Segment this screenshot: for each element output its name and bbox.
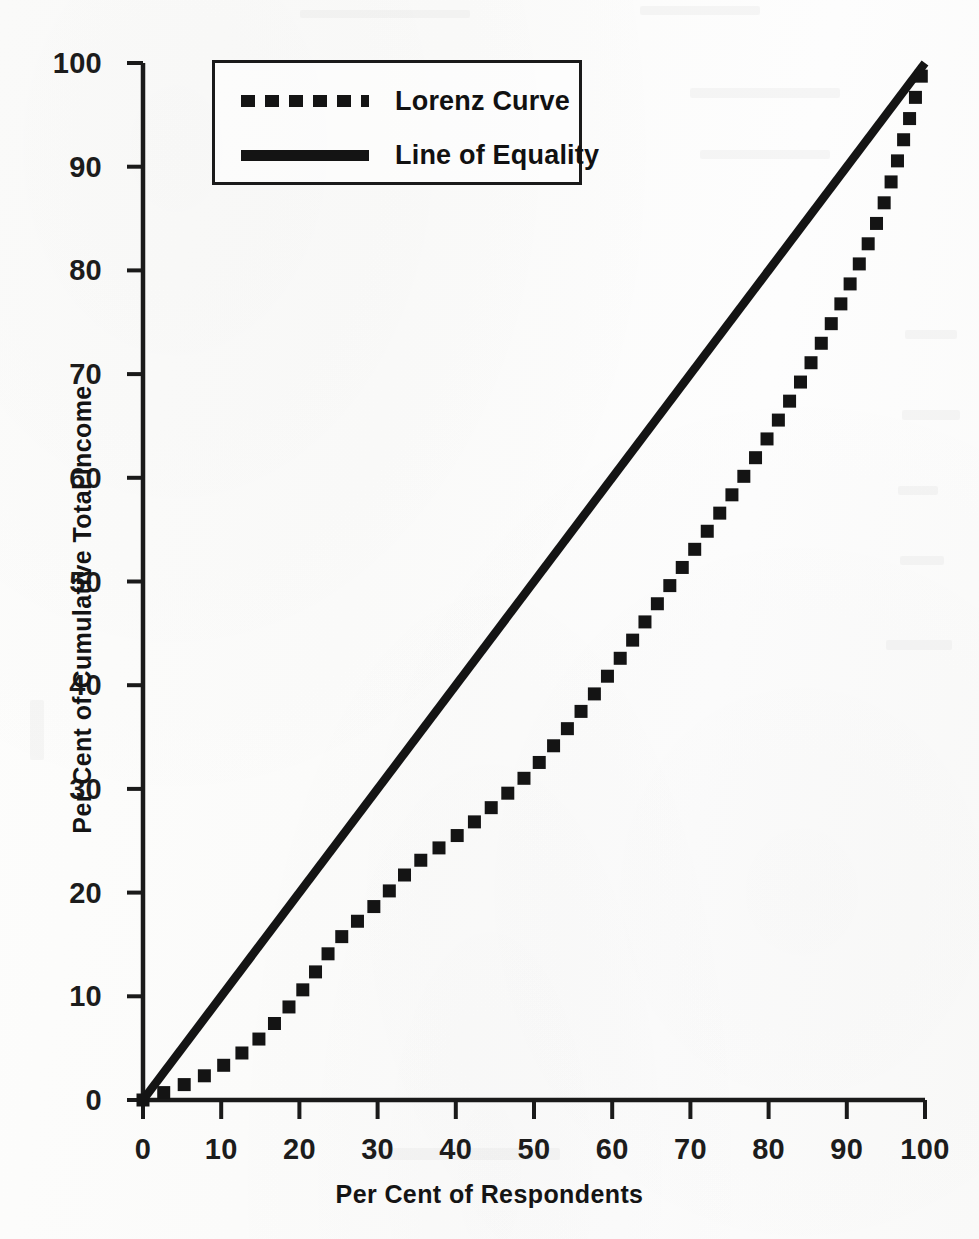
lorenz-curve-dot [235, 1046, 248, 1059]
lorenz-curve-dot [268, 1017, 281, 1030]
y-tick-label: 10 [40, 980, 102, 1013]
lorenz-curve-chart: 0 10 20 30 40 50 60 70 80 90 100 0 10 20… [0, 0, 979, 1239]
legend-label: Line of Equality [395, 140, 599, 171]
x-tick-label: 70 [674, 1133, 707, 1166]
lorenz-curve-dot [885, 175, 898, 188]
lorenz-curve-dot [626, 634, 639, 647]
lorenz-curve-dot [749, 451, 762, 464]
lorenz-curve-dot [834, 297, 847, 310]
line-of-equality-path [143, 63, 925, 1100]
lorenz-curve-dot [853, 257, 866, 270]
lorenz-curve-dot [383, 884, 396, 897]
lorenz-curve-dot [772, 414, 785, 427]
lorenz-curve-dot [533, 756, 546, 769]
x-tick-label: 100 [900, 1133, 949, 1166]
lorenz-curve-dot [725, 488, 738, 501]
lorenz-curve-dot [891, 154, 904, 167]
lorenz-curve-dot [282, 1000, 295, 1013]
lorenz-curve-dot [414, 854, 427, 867]
lorenz-curve-dot [909, 91, 922, 104]
lorenz-curve-dot [398, 869, 411, 882]
lorenz-curve-dot [588, 687, 601, 700]
lorenz-curve-dot [309, 965, 322, 978]
lorenz-curve-dot [501, 787, 514, 800]
lorenz-curve-dot [432, 841, 445, 854]
lorenz-curve-dot [451, 829, 464, 842]
lorenz-curve-dot [485, 801, 498, 814]
lorenz-curve-dot [198, 1069, 211, 1082]
x-axis-title: Per Cent of Respondents [0, 1180, 979, 1209]
lorenz-curve-dot [862, 237, 875, 250]
lorenz-curve-dot [575, 705, 588, 718]
lorenz-curve-dot [825, 317, 838, 330]
lorenz-curve-dot [805, 356, 818, 369]
lorenz-curve-dot [794, 376, 807, 389]
y-tick-label: 80 [40, 254, 102, 287]
x-axis-ticks [143, 1100, 925, 1119]
x-tick-label: 60 [596, 1133, 629, 1166]
lorenz-curve-dot [601, 670, 614, 683]
x-tick-label: 20 [283, 1133, 316, 1166]
lorenz-curve-dot [351, 915, 364, 928]
x-tick-label: 90 [830, 1133, 863, 1166]
lorenz-curve-dot [737, 470, 750, 483]
legend-swatch-solid-line-icon [241, 150, 369, 161]
lorenz-curve-dot [638, 615, 651, 628]
lorenz-curve-dot [651, 597, 664, 610]
lorenz-curve-dot [915, 70, 928, 83]
series-line-of-equality [143, 63, 925, 1100]
x-tick-label: 80 [752, 1133, 785, 1166]
lorenz-curve-dot [783, 395, 796, 408]
lorenz-curve-dot [296, 983, 309, 996]
lorenz-curve-dot [561, 722, 574, 735]
x-tick-label: 10 [205, 1133, 238, 1166]
chart-legend: Lorenz Curve Line of Equality [212, 60, 582, 185]
legend-swatch-dotted-line-icon [241, 95, 369, 107]
lorenz-curve-dot [517, 772, 530, 785]
lorenz-curve-dot [676, 561, 689, 574]
lorenz-curve-dot [701, 525, 714, 538]
lorenz-curve-dot [178, 1078, 191, 1091]
lorenz-curve-dot [335, 930, 348, 943]
lorenz-curve-dot [870, 217, 883, 230]
lorenz-curve-dot [663, 579, 676, 592]
lorenz-curve-dot [903, 112, 916, 125]
y-axis-ticks [127, 63, 143, 1100]
lorenz-curve-dot [157, 1086, 170, 1099]
lorenz-curve-dot [614, 652, 627, 665]
x-tick-label: 40 [439, 1133, 472, 1166]
x-tick-label: 0 [135, 1133, 151, 1166]
legend-item-line-of-equality: Line of Equality [215, 135, 579, 175]
lorenz-curve-dot [897, 133, 910, 146]
y-tick-label: 100 [40, 47, 102, 80]
y-tick-label: 0 [40, 1084, 102, 1117]
lorenz-curve-dot [468, 815, 481, 828]
legend-label: Lorenz Curve [395, 86, 570, 117]
lorenz-curve-dot [815, 337, 828, 350]
lorenz-curve-dot [688, 543, 701, 556]
lorenz-curve-dot [878, 196, 891, 209]
lorenz-curve-dot [547, 739, 560, 752]
x-tick-label: 30 [361, 1133, 394, 1166]
lorenz-curve-dot [322, 947, 335, 960]
lorenz-curve-dot [844, 277, 857, 290]
lorenz-curve-dot [713, 507, 726, 520]
y-tick-label: 90 [40, 150, 102, 183]
lorenz-curve-dot [761, 432, 774, 445]
lorenz-curve-dot [367, 900, 380, 913]
legend-item-lorenz-curve: Lorenz Curve [215, 81, 579, 121]
lorenz-curve-dot [137, 1094, 150, 1107]
y-axis-title: Per Cent of Cumulative Total Income [68, 300, 97, 920]
lorenz-curve-dot [217, 1059, 230, 1072]
x-tick-label: 50 [518, 1133, 551, 1166]
plot-canvas [0, 0, 979, 1239]
lorenz-curve-dot [252, 1033, 265, 1046]
